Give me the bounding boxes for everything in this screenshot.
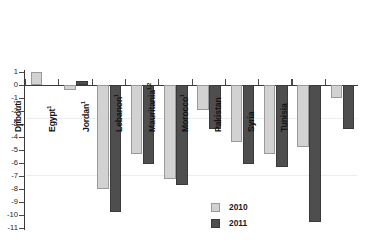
y-tick: [19, 228, 24, 229]
legend: 2010 2011: [211, 199, 248, 231]
legend-label-2010: 2010: [229, 202, 248, 212]
y-tick-label: -10: [1, 211, 18, 219]
y-tick: [19, 137, 24, 138]
y-tick: [19, 163, 24, 164]
y-tick: [19, 202, 24, 203]
legend-swatch-2011: [211, 219, 220, 228]
legend-swatch-2010: [211, 203, 220, 212]
y-tick: [19, 215, 24, 216]
category-label-tunisia: Tunisia: [279, 103, 345, 132]
legend-item-2010: 2010: [211, 199, 248, 215]
category-tick: [258, 79, 259, 85]
category-tick: [92, 79, 93, 85]
legend-label-2011: 2011: [229, 218, 247, 228]
gridline: [26, 175, 357, 176]
y-tick: [19, 150, 24, 151]
legend-item-2011: 2011: [211, 215, 248, 231]
category-tick: [125, 79, 126, 85]
y-tick-label: -6: [1, 159, 18, 167]
y-tick: [19, 189, 24, 190]
y-tick-label: -4: [1, 133, 18, 141]
bar-tunisia-2010: [331, 85, 343, 98]
y-tick-label: -8: [1, 185, 18, 193]
bar-djibouti-2011: [76, 81, 88, 85]
y-tick-label: -11: [1, 224, 18, 232]
y-tick-label: 1: [1, 68, 18, 76]
y-tick-label: -5: [1, 146, 18, 154]
category-tick: [291, 79, 292, 85]
bar-djibouti-2010: [64, 85, 76, 90]
category-tick: [58, 79, 59, 85]
y-tick-label: -7: [1, 172, 18, 180]
y-tick: [19, 72, 24, 73]
category-tick: [225, 79, 226, 85]
y-tick-label: -9: [1, 198, 18, 206]
category-tick: [325, 79, 326, 85]
y-tick: [19, 176, 24, 177]
bar-chart: 10-1-2-3-4-5-6-7-8-9-10-11 AfghanistanDj…: [0, 0, 380, 251]
